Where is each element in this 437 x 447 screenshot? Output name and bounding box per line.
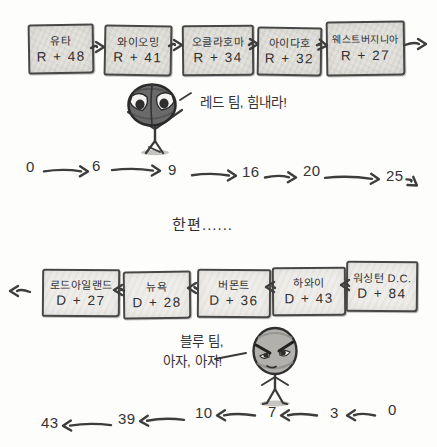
state-margin: R + 34 <box>193 50 242 66</box>
state-box-rhode-island: 로드아일랜드 D + 27 <box>42 269 120 318</box>
right-arrow-icon <box>263 169 298 184</box>
state-margin: D + 84 <box>357 286 406 302</box>
left-arrow-icon <box>215 407 257 422</box>
tally-value: 10 <box>195 404 213 421</box>
blue-team-speech-line2: 아자, 아자! <box>163 350 222 370</box>
red-team-mascot <box>118 83 198 157</box>
state-name: 하와이 <box>293 277 325 289</box>
state-margin: R + 41 <box>113 50 162 66</box>
left-arrow-icon <box>186 281 199 295</box>
state-name: 웨스트버지니아 <box>332 34 399 47</box>
left-arrow-icon <box>138 412 187 428</box>
tally-value: 20 <box>303 162 321 179</box>
state-name: 와이오밍 <box>117 36 159 49</box>
state-margin: D + 36 <box>209 293 258 308</box>
red-team-speech: 레드 팀, 힘내라! <box>200 91 287 111</box>
state-margin: D + 43 <box>284 291 333 306</box>
state-margin: R + 27 <box>341 48 390 64</box>
tally-value: 3 <box>330 404 339 421</box>
state-margin: R + 32 <box>265 51 314 67</box>
right-arrow-icon <box>401 172 422 193</box>
state-box-hawaii: 하와이 D + 43 <box>272 267 346 317</box>
left-arrow-icon <box>279 407 319 422</box>
blue-team-speech-line1: 블루 팀, <box>180 330 224 350</box>
tally-value: 6 <box>92 157 101 174</box>
tally-value: 0 <box>26 158 35 175</box>
state-name: 오클라호마 <box>192 36 245 49</box>
state-margin: D + 28 <box>132 294 181 310</box>
state-margin: R + 48 <box>36 48 85 64</box>
left-arrow-icon <box>112 283 126 297</box>
state-box-wyoming: 와이오밍 R + 41 <box>104 24 173 76</box>
right-arrow-icon <box>110 162 162 178</box>
state-box-washington-dc: 워싱턴 D.C. D + 84 <box>346 261 419 313</box>
state-box-west-virginia: 웨스트버지니아 R + 27 <box>326 20 406 76</box>
left-arrow-icon <box>345 407 377 422</box>
state-box-idaho: 아이다호 R + 32 <box>257 27 323 77</box>
right-arrow-icon <box>314 37 330 53</box>
tally-value: 43 <box>41 414 59 431</box>
state-box-vermont: 버몬트 D + 36 <box>197 269 271 319</box>
right-arrow-icon <box>89 40 106 54</box>
right-arrow-icon <box>323 170 382 187</box>
meanwhile-label: 한편...... <box>172 213 233 234</box>
state-name: 뉴욕 <box>146 280 167 292</box>
state-margin: D + 27 <box>56 292 105 307</box>
blue-team-mascot <box>245 326 305 408</box>
right-arrow-icon <box>190 167 238 183</box>
state-name: 유타 <box>50 34 71 46</box>
right-arrow-icon <box>167 38 184 52</box>
tally-value: 9 <box>168 161 177 178</box>
right-arrow-icon <box>247 37 260 51</box>
right-arrow-icon <box>403 37 428 51</box>
tally-value: 39 <box>118 410 136 427</box>
cheering-stick-figure-icon <box>118 83 198 157</box>
left-arrow-icon <box>61 417 113 433</box>
state-box-new-york: 뉴욕 D + 28 <box>123 271 192 320</box>
tally-value: 16 <box>242 163 260 180</box>
state-box-utah: 유타 R + 48 <box>28 23 95 74</box>
state-box-oklahoma: 오클라호마 R + 34 <box>182 25 255 77</box>
state-name: 아이다호 <box>269 37 311 50</box>
left-arrow-icon <box>339 278 351 292</box>
tally-value: 7 <box>268 403 277 420</box>
hand-drawn-diagram: 유타 R + 48 와이오밍 R + 41 오클라호마 R + 34 아이다호 … <box>0 0 437 447</box>
angry-stick-figure-icon <box>245 326 305 408</box>
tally-value: 0 <box>388 401 397 418</box>
state-name: 로드아일랜드 <box>50 278 113 291</box>
right-arrow-icon <box>42 163 90 178</box>
state-name: 버몬트 <box>218 279 250 291</box>
left-arrow-icon <box>264 280 277 294</box>
left-arrow-icon <box>8 284 32 298</box>
state-name: 워싱턴 D.C. <box>352 272 411 285</box>
